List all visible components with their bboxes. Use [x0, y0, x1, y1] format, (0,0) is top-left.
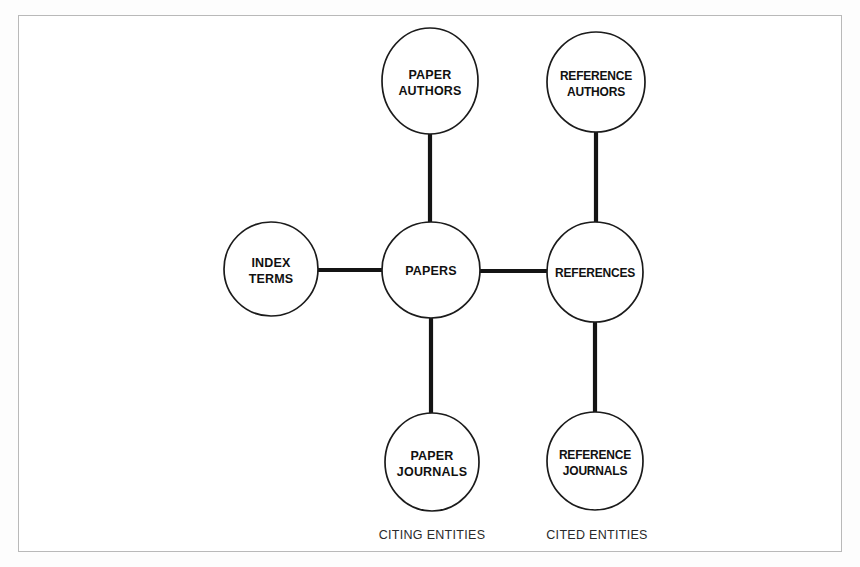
node-label-reference-authors-line1: REFERENCE [560, 69, 632, 83]
node-index-terms[interactable]: INDEXTERMS [224, 222, 318, 316]
captions-layer: CITING ENTITIESCITED ENTITIES [379, 528, 648, 542]
node-label-papers: PAPERS [405, 264, 457, 278]
caption-citing-entities: CITING ENTITIES [379, 528, 486, 542]
entity-relationship-diagram: PAPERAUTHORSREFERENCEAUTHORSINDEXTERMSPA… [0, 0, 860, 567]
node-label-reference-journals-line1: REFERENCE [559, 448, 631, 462]
node-paper-journals[interactable]: PAPERJOURNALS [385, 413, 479, 511]
node-label-references: REFERENCES [555, 266, 635, 280]
node-references[interactable]: REFERENCES [547, 222, 643, 322]
node-paper-authors[interactable]: PAPERAUTHORS [382, 28, 478, 134]
node-reference-authors[interactable]: REFERENCEAUTHORS [547, 32, 645, 132]
caption-cited-entities: CITED ENTITIES [546, 528, 647, 542]
node-papers[interactable]: PAPERS [382, 222, 480, 318]
node-label-paper-journals-line1: PAPER [410, 449, 453, 463]
node-reference-journals[interactable]: REFERENCEJOURNALS [547, 412, 643, 510]
node-label-reference-authors-line2: AUTHORS [567, 85, 625, 99]
page-canvas: PAPERAUTHORSREFERENCEAUTHORSINDEXTERMSPA… [0, 0, 860, 567]
node-label-paper-authors-line1: PAPER [408, 68, 451, 82]
node-label-index-terms-line1: INDEX [251, 256, 291, 270]
node-label-index-terms-line2: TERMS [249, 272, 294, 286]
nodes-layer: PAPERAUTHORSREFERENCEAUTHORSINDEXTERMSPA… [224, 28, 645, 511]
node-label-paper-journals-line2: JOURNALS [397, 465, 467, 479]
node-label-paper-authors-line2: AUTHORS [398, 84, 461, 98]
node-label-reference-journals-line2: JOURNALS [563, 464, 628, 478]
